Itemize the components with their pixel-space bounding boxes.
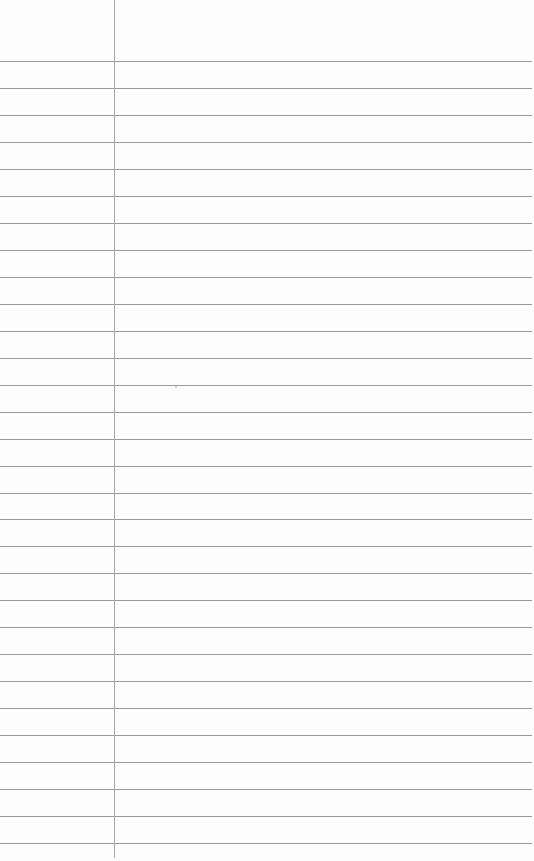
ruled-line [0,762,532,763]
paper-speck [175,386,177,388]
ruled-line [0,277,532,278]
ruled-line [0,627,532,628]
ruled-line [0,412,532,413]
ruled-line [0,88,532,89]
ruled-line [0,654,532,655]
ruled-line [0,304,532,305]
ruled-line [0,573,532,574]
ruled-line [0,169,532,170]
ruled-line [0,600,532,601]
ruled-line [0,439,532,440]
ruled-line [0,115,532,116]
ruled-line [0,250,532,251]
ruled-line [0,385,532,386]
ruled-line [0,816,532,817]
ruled-line [0,519,532,520]
ruled-line [0,681,532,682]
ruled-line [0,358,532,359]
lined-paper [0,0,534,861]
ruled-line [0,331,532,332]
ruled-line [0,843,532,844]
ruled-line [0,708,532,709]
ruled-line [0,223,532,224]
ruled-line [0,493,532,494]
ruled-line [0,735,532,736]
ruled-line [0,466,532,467]
margin-line [114,0,115,858]
ruled-line [0,789,532,790]
ruled-line [0,61,532,62]
ruled-line [0,546,532,547]
ruled-line [0,142,532,143]
ruled-line [0,196,532,197]
